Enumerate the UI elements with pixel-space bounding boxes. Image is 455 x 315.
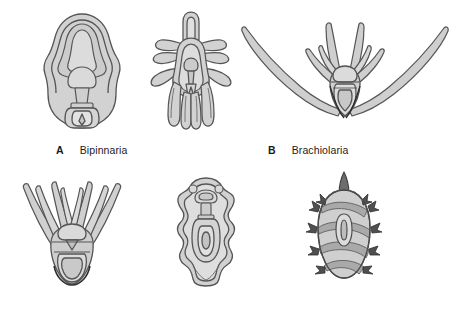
auricularia-larva-drawing: [160, 174, 252, 288]
panel-letter: A: [56, 144, 64, 156]
bipinnaria-larva-drawing: [22, 10, 142, 130]
panel-name: Bipinnaria: [80, 144, 128, 156]
echinopluteus-larva-drawing: [8, 170, 136, 288]
brachiolaria-larva-drawing: [136, 10, 246, 130]
panel-bipinnaria: A Bipinnaria: [22, 10, 142, 130]
panel-ophiopluteus: C Ophiopluteus: [238, 10, 452, 128]
panel-auricularia: E Auricularia: [160, 174, 252, 288]
panel-echinopluteus: D Echinopluteus: [8, 170, 136, 288]
panel-letter: B: [268, 144, 276, 156]
panel-doliolaria: F Doliolaria: [296, 170, 392, 288]
doliolaria-larva-drawing: [296, 170, 392, 288]
panel-brachiolaria: B Brachiolaria: [136, 10, 246, 130]
ophiopluteus-larva-drawing: [238, 10, 452, 128]
caption-bipinnaria: A Bipinnaria: [56, 144, 127, 156]
panel-name: Brachiolaria: [292, 144, 349, 156]
caption-brachiolaria: B Brachiolaria: [268, 144, 348, 156]
echinoderm-larvae-figure: A Bipinnaria: [0, 0, 455, 315]
